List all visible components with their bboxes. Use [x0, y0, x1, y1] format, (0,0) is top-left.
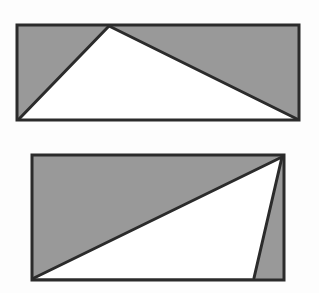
upper-rectangle-group: [17, 25, 299, 120]
figure-container: Two shaded rectangles with inscribed whi…: [0, 0, 319, 293]
lower-rectangle-group: [32, 155, 284, 280]
geometry-diagram: [0, 0, 319, 293]
